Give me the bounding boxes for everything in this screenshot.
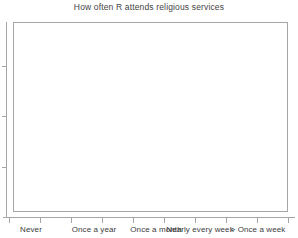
x-axis-tick <box>40 218 41 223</box>
x-axis-tick <box>133 218 134 223</box>
x-axis-tick <box>164 218 165 223</box>
x-axis-tick-label: Never <box>20 225 42 235</box>
y-axis-line <box>6 22 7 218</box>
x-axis-tick <box>9 218 10 223</box>
x-axis-tick-label: Once a year <box>72 225 117 235</box>
x-axis-tick <box>71 218 72 223</box>
x-axis-tick <box>226 218 227 223</box>
x-axis-tick-label: Nearly every week <box>166 225 234 235</box>
chart-title: How often R attends religious services <box>0 2 298 13</box>
x-axis-tick <box>102 218 103 223</box>
x-axis-tick <box>257 218 258 223</box>
x-axis-tick-label: > Once a week <box>231 225 286 235</box>
x-axis-tick <box>195 218 196 223</box>
y-axis-tick <box>2 66 7 67</box>
chart-figure: How often R attends religious services N… <box>0 0 298 238</box>
x-axis-line <box>3 217 295 218</box>
y-axis-tick <box>2 116 7 117</box>
plot-frame <box>13 22 288 212</box>
plot-area <box>14 23 287 211</box>
y-axis-tick <box>2 167 7 168</box>
x-axis-tick <box>288 218 289 223</box>
